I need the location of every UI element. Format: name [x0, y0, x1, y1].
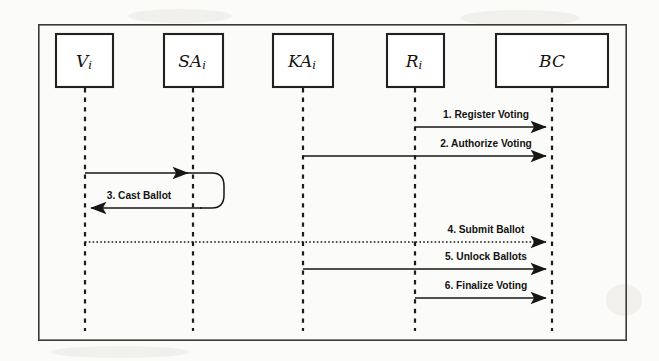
message-4-label: 4. Submit Ballot — [448, 224, 526, 235]
actor-label-bc: BC — [538, 51, 565, 71]
diagram-canvas: Vi SAi KAi Ri BC 1. Register Voting 2. A… — [0, 0, 659, 361]
message-2-authorize-voting: 2. Authorize Voting — [303, 138, 546, 156]
message-1-label: 1. Register Voting — [443, 109, 529, 120]
actor-subscript-ka: i — [312, 58, 316, 72]
sequence-diagram-figure: Vi SAi KAi Ri BC 1. Register Voting 2. A… — [0, 0, 659, 361]
actor-subscript-voter: i — [88, 58, 92, 72]
actor-subscript-registrar: i — [419, 58, 423, 72]
actor-name-registrar: R — [405, 51, 419, 71]
message-4-submit-ballot: 4. Submit Ballot — [85, 224, 546, 242]
actor-name-ka: KA — [287, 51, 312, 71]
actor-name-bc: BC — [538, 51, 565, 71]
actor-label-ka: KAi — [287, 51, 316, 73]
message-3-cast-ballot: 3. Cast Ballot — [85, 173, 224, 208]
actor-label-sa: SAi — [178, 51, 206, 73]
message-6-finalize-voting: 6. Finalize Voting — [415, 280, 546, 298]
message-3-label: 3. Cast Ballot — [107, 190, 172, 201]
message-1-register-voting: 1. Register Voting — [415, 109, 546, 127]
message-6-label: 6. Finalize Voting — [445, 280, 527, 291]
actor-boxes — [56, 34, 608, 87]
lifelines — [85, 88, 552, 331]
message-2-label: 2. Authorize Voting — [440, 138, 532, 149]
actor-subscript-sa: i — [202, 58, 206, 72]
message-3-loop-curve — [186, 173, 224, 208]
actor-name-sa: SA — [178, 51, 202, 71]
message-5-unlock-ballots: 5. Unlock Ballots — [303, 251, 546, 269]
message-5-label: 5. Unlock Ballots — [445, 251, 527, 262]
